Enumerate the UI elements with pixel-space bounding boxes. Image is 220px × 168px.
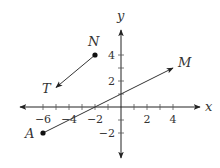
- coordinate-plane: −6−4−224 42−2 x y N T A M: [0, 0, 220, 168]
- y-tick-label: 4: [108, 49, 115, 62]
- y-tick-label: 2: [108, 75, 115, 88]
- point-n-dot: [92, 52, 97, 57]
- y-axis-label: y: [116, 8, 125, 23]
- point-n-label: N: [87, 34, 100, 49]
- ray-nt: [56, 52, 98, 87]
- point-m-label: M: [177, 55, 192, 70]
- x-tick-label: 4: [170, 113, 177, 126]
- y-axis-tick-labels: 42−2: [99, 49, 115, 140]
- point-a-label: A: [24, 126, 34, 141]
- x-tick-label: −6: [35, 113, 51, 126]
- y-tick-label: −2: [99, 127, 115, 140]
- x-axis-label: x: [205, 99, 213, 114]
- x-tick-label: −2: [87, 113, 103, 126]
- point-a-dot: [40, 130, 45, 135]
- x-tick-label: 2: [144, 113, 151, 126]
- point-t-label: T: [42, 81, 52, 96]
- x-axis-tick-labels: −6−4−224: [35, 113, 177, 126]
